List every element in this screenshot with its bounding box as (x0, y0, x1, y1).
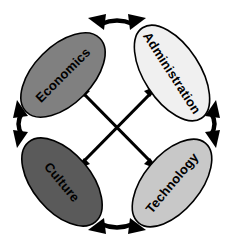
arc-top-head-left (88, 14, 106, 30)
diagram-canvas: Economics Administration Culture Technol… (0, 0, 233, 248)
arc-top-line (101, 21, 133, 25)
arc-arrow-top (88, 14, 146, 30)
arc-bottom-line (101, 224, 133, 228)
interaction-diagram: Economics Administration Culture Technol… (0, 0, 233, 248)
